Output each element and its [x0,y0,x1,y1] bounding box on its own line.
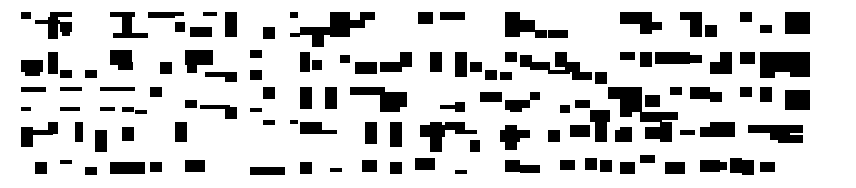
maze-block [300,162,312,174]
maze-block [595,120,607,142]
maze-block [48,122,58,134]
maze-block [60,160,72,164]
maze-block [560,105,570,113]
maze-block [740,12,752,22]
maze-block [548,130,560,142]
maze-block [690,55,702,63]
maze-block [100,107,115,111]
maze-block [505,52,517,62]
maze-block [205,72,227,77]
maze-block [148,12,175,18]
maze-block [118,62,133,70]
maze-block [21,60,43,72]
maze-block [530,62,550,70]
maze-pattern [0,0,856,188]
maze-block [655,52,690,64]
maze-block [585,158,597,170]
maze-block [575,100,590,108]
maze-block [300,52,310,72]
maze-block [470,140,480,152]
maze-block [620,127,632,142]
maze-block [760,25,772,33]
maze-block [455,170,467,174]
maze-block [60,22,72,32]
maze-block [480,92,502,102]
maze-block [21,127,33,147]
maze-block [185,100,197,108]
maze-block [60,87,82,91]
maze-block [21,107,31,111]
maze-block [175,22,185,32]
maze-block [263,87,275,99]
maze-block [300,87,312,109]
maze-block [620,112,632,117]
maze-block [110,162,145,174]
maze-block [535,30,547,38]
maze-block [760,70,775,78]
maze-block [60,107,80,111]
maze-block [742,160,754,175]
maze-block [312,130,337,134]
maze-block [263,120,275,125]
maze-block [190,27,212,37]
maze-block [122,107,134,112]
maze-block [505,125,517,150]
maze-block [185,50,213,65]
maze-block [250,108,262,112]
maze-block [225,12,237,37]
maze-block [330,168,342,172]
maze-block [660,122,672,142]
maze-block [175,122,187,142]
maze-block [25,72,40,76]
maze-block [62,32,70,36]
maze-block [172,12,184,16]
maze-block [21,12,31,19]
maze-block [715,162,727,170]
maze-block [85,167,97,175]
maze-block [340,55,350,63]
maze-block [470,62,482,72]
maze-block [505,160,520,172]
maze-block [705,25,717,37]
maze-block [680,130,695,135]
maze-block [785,12,810,34]
maze-block [203,12,217,16]
maze-block [415,158,435,170]
maze-block [95,130,107,152]
maze-block [710,122,735,137]
maze-block [225,72,237,82]
maze-block [365,122,377,144]
maze-block [100,87,135,91]
maze-block [445,122,465,130]
maze-block [600,160,612,172]
maze-block [485,70,497,80]
maze-block [520,165,540,173]
maze-block [440,12,465,20]
maze-block [48,52,58,74]
maze-block [665,162,685,174]
maze-block [35,20,60,24]
maze-block [312,35,324,47]
maze-block [122,127,134,141]
maze-block [350,20,365,28]
maze-block [785,90,810,110]
maze-block [455,130,477,134]
maze-block [505,100,517,110]
maze-block [778,135,803,143]
maze-block [608,87,620,99]
maze-block [645,95,660,107]
maze-block [60,70,72,78]
maze-block [740,87,752,97]
maze-block [520,100,530,108]
maze-block [640,155,655,163]
maze-block [620,87,642,112]
maze-block [710,92,722,102]
maze-block [530,92,540,100]
maze-block [185,160,205,172]
maze-block [330,12,350,37]
maze-block [355,62,377,74]
maze-block [650,22,662,30]
maze-block [570,125,590,137]
maze-block [380,62,402,72]
maze-block [400,52,412,67]
